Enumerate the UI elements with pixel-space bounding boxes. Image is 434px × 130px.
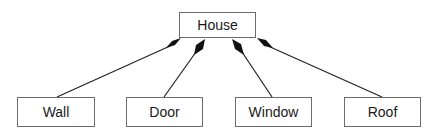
class-label-wall: Wall [43, 104, 70, 120]
edge-window-house [232, 39, 272, 97]
class-box-house: House [179, 12, 256, 38]
composition-diamond-icon [194, 39, 205, 55]
edge-wall-house [57, 38, 181, 97]
class-box-roof: Roof [344, 97, 421, 127]
class-label-window: Window [249, 104, 299, 120]
composition-diamond-icon [257, 38, 273, 48]
composition-diamond-icon [166, 38, 181, 48]
composition-diamond-icon [232, 39, 244, 55]
class-label-door: Door [149, 104, 179, 120]
class-label-roof: Roof [368, 104, 398, 120]
class-box-door: Door [126, 97, 203, 127]
edge-roof-house [257, 38, 382, 97]
class-label-house: House [197, 17, 237, 33]
edge-door-house [164, 39, 205, 97]
class-box-wall: Wall [17, 97, 95, 127]
class-box-window: Window [235, 97, 312, 127]
